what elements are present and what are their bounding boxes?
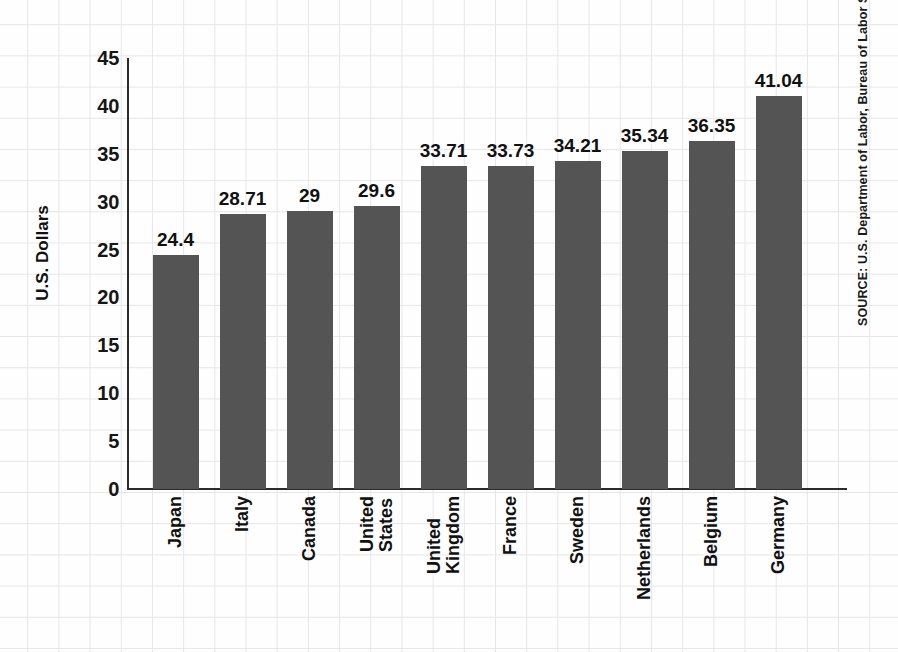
bar-slot: 24.4 bbox=[142, 58, 209, 489]
bar[interactable] bbox=[488, 166, 534, 489]
bar[interactable] bbox=[555, 161, 601, 489]
bar[interactable] bbox=[287, 211, 333, 489]
bar-slot: 33.71 bbox=[410, 58, 477, 489]
x-axis-category-slot: Canada bbox=[276, 496, 343, 646]
x-axis-category-label: Japan bbox=[166, 496, 185, 548]
category-label-line: France bbox=[500, 496, 520, 555]
x-axis-category-label: Canada bbox=[300, 496, 319, 561]
bar[interactable] bbox=[354, 206, 400, 490]
bar[interactable] bbox=[153, 255, 199, 489]
bar-series: 24.428.712929.633.7133.7334.2135.3436.35… bbox=[127, 58, 847, 489]
x-axis-category-label: Sweden bbox=[568, 496, 587, 564]
x-axis-category-label: UnitedKingdom bbox=[424, 496, 462, 574]
y-axis-tick: 10 bbox=[67, 383, 119, 403]
y-axis-tick: 25 bbox=[67, 240, 119, 260]
bar-slot: 29 bbox=[276, 58, 343, 489]
bar[interactable] bbox=[689, 141, 735, 489]
bar[interactable] bbox=[421, 166, 467, 489]
category-label-line: Kingdom bbox=[444, 496, 463, 574]
category-label-line: States bbox=[377, 496, 396, 552]
x-axis-category-label: Netherlands bbox=[635, 496, 654, 600]
x-axis-category-slot: France bbox=[477, 496, 544, 646]
source-note: SOURCE: U.S. Department of Labor, Bureau… bbox=[856, 0, 870, 326]
x-axis-category-slot: Germany bbox=[745, 496, 812, 646]
x-axis-category-slot: UnitedStates bbox=[343, 496, 410, 646]
bar-value-label: 29.6 bbox=[335, 181, 418, 200]
category-label-line: United bbox=[356, 496, 376, 552]
y-axis-tick: 5 bbox=[67, 431, 119, 451]
x-axis-category-slot: Belgium bbox=[678, 496, 745, 646]
x-axis-category-label: Belgium bbox=[702, 496, 721, 567]
category-label-line: Germany bbox=[768, 496, 788, 574]
bar-value-label: 24.4 bbox=[134, 230, 217, 249]
x-axis-category-slot: Sweden bbox=[544, 496, 611, 646]
x-axis-category-slot: UnitedKingdom bbox=[410, 496, 477, 646]
y-axis-title: U.S. Dollars bbox=[33, 183, 53, 323]
bar-slot: 28.71 bbox=[209, 58, 276, 489]
category-label-line: Japan bbox=[165, 496, 185, 548]
chart-page: U.S. Dollars 454035302520151050 24.428.7… bbox=[0, 0, 898, 652]
x-axis-category-label: France bbox=[501, 496, 520, 555]
bar[interactable] bbox=[622, 151, 668, 489]
y-axis-tick-labels: 454035302520151050 bbox=[55, 58, 119, 489]
y-axis-tick: 15 bbox=[67, 335, 119, 355]
bar-slot: 33.73 bbox=[477, 58, 544, 489]
category-label-line: Italy bbox=[232, 496, 252, 532]
bar[interactable] bbox=[220, 214, 266, 489]
y-axis-tick: 20 bbox=[67, 287, 119, 307]
bar-slot: 34.21 bbox=[544, 58, 611, 489]
x-axis-category-label: Germany bbox=[769, 496, 788, 574]
category-label-line: Sweden bbox=[567, 496, 587, 564]
x-axis-category-slot: Netherlands bbox=[611, 496, 678, 646]
bar-value-label: 41.04 bbox=[737, 71, 820, 90]
bar-slot: 29.6 bbox=[343, 58, 410, 489]
bar-slot: 35.34 bbox=[611, 58, 678, 489]
bar-slot: 41.04 bbox=[745, 58, 812, 489]
x-axis-category-slot: Japan bbox=[142, 496, 209, 646]
bar-slot: 36.35 bbox=[678, 58, 745, 489]
x-axis-category-slot: Italy bbox=[209, 496, 276, 646]
category-label-line: Canada bbox=[299, 496, 319, 561]
category-label-line: United bbox=[423, 518, 443, 574]
category-label-line: Netherlands bbox=[634, 496, 654, 600]
y-axis-tick: 40 bbox=[67, 96, 119, 116]
y-axis-tick: 30 bbox=[67, 192, 119, 212]
y-axis-tick: 35 bbox=[67, 144, 119, 164]
x-axis-category-label: Italy bbox=[233, 496, 252, 532]
bar-value-label: 36.35 bbox=[670, 116, 753, 135]
category-label-line: Belgium bbox=[701, 496, 721, 567]
y-axis-tick: 45 bbox=[67, 48, 119, 68]
y-axis-tick: 0 bbox=[67, 479, 119, 499]
bar[interactable] bbox=[756, 96, 802, 489]
x-axis-category-label: UnitedStates bbox=[357, 496, 395, 552]
